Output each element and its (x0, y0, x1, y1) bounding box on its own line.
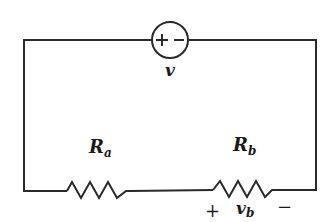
resistor-b-label: Rb (232, 134, 256, 158)
circuit-diagram: v Ra Rb + vb − (0, 0, 335, 222)
resistor-a-label: Ra (88, 136, 112, 160)
top-wire-right (188, 40, 316, 190)
resistor-b-plus-sign: + (205, 200, 220, 221)
bottom-wire-middle (130, 190, 213, 191)
voltage-source (152, 22, 188, 58)
resistor-a-zigzag (67, 182, 130, 198)
source-voltage-label: v (165, 60, 176, 80)
top-wire-left (24, 40, 152, 191)
resistor-b-voltage-label: vb (236, 198, 254, 220)
resistor-b-minus-sign: − (277, 196, 292, 217)
resistor-b-zigzag (213, 181, 276, 197)
source-plus-icon (156, 34, 168, 46)
